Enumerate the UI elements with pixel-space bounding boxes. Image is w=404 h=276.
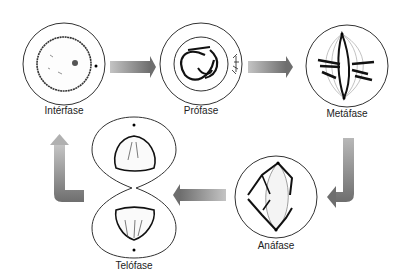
arrow-telofase-to-interfase-icon (50, 134, 84, 202)
arrow-profase-to-metafase-icon (248, 56, 293, 78)
mitosis-diagram (0, 0, 404, 276)
arrow-interfase-to-profase-icon (110, 56, 156, 78)
label-anafase: Anáfase (258, 240, 295, 251)
label-interfase: Intérfase (45, 105, 84, 116)
label-metafase: Metáfase (326, 108, 367, 119)
profase-cell (160, 23, 242, 105)
anafase-cell (235, 156, 317, 238)
interfase-cell (23, 23, 105, 105)
telofase-cell (92, 117, 176, 258)
label-telofase: Telófase (115, 260, 152, 271)
arrow-metafase-to-anafase-icon (327, 138, 354, 208)
label-profase: Prófase (184, 105, 218, 116)
metafase-cell (306, 25, 388, 107)
arrow-anafase-to-telofase-icon (173, 184, 226, 206)
